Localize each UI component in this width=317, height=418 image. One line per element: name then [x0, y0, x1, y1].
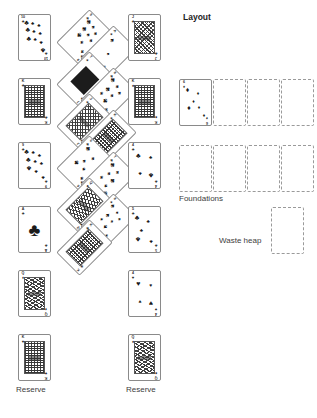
card-pip: ♣ — [103, 183, 109, 189]
card-pip: ♣ — [117, 90, 123, 96]
playing-card-9-club[interactable]: 9♣9♣♣♣♣♣♣♣♣♣♣ — [18, 142, 51, 189]
card-pip: ♥ — [149, 300, 153, 307]
card-pip: ♣ — [88, 37, 94, 43]
card-pip: ♦ — [198, 105, 201, 110]
card-pip: ♣ — [24, 148, 29, 155]
card-pip: ♠ — [115, 210, 120, 215]
card-pip: ♣ — [33, 159, 36, 164]
card-pip: ♣ — [29, 221, 41, 239]
playing-card-k-club[interactable]: K♣K♣ — [18, 78, 51, 125]
court-card-art — [24, 277, 45, 310]
foundation-slot-empty[interactable] — [179, 145, 212, 192]
card-pip: ♣ — [104, 85, 112, 93]
card-pip: ♦ — [186, 86, 190, 93]
court-card-band — [78, 242, 90, 254]
page-title: Layout — [183, 12, 211, 22]
court-card-band — [102, 132, 114, 144]
reserve-middle-label: Reserve — [126, 385, 156, 395]
card-pip: ♣ — [140, 227, 143, 232]
foundation-slot-empty[interactable] — [247, 145, 280, 192]
card-pip: ♣ — [99, 175, 105, 181]
card-pip-field: ♣ — [19, 207, 50, 252]
card-pip: ♠ — [106, 51, 111, 56]
card-pip: ♣ — [81, 166, 87, 172]
card-pip: ♣ — [41, 175, 44, 180]
card-pip: ♣ — [90, 155, 96, 161]
court-card-band — [138, 36, 151, 40]
card-pip: ♣ — [85, 32, 91, 38]
card-pip-field: ♣♣♣♣♣♣♣♣♣♣ — [19, 15, 50, 60]
card-pip: ♣ — [82, 158, 88, 164]
foundation-slot-empty[interactable] — [281, 79, 314, 126]
card-pip: ♣ — [109, 161, 117, 169]
card-pip: ♣ — [25, 26, 30, 33]
waste-heap-label: Waste heap — [219, 236, 261, 246]
playing-card-k-spade[interactable]: K♠K♠ — [128, 78, 161, 125]
card-pip: ♣ — [114, 84, 120, 90]
card-pip-field: ♣♣♣♣ — [129, 143, 160, 188]
card-pip: ♣ — [147, 218, 150, 223]
playing-card-10-club[interactable]: 10♣10♣♣♣♣♣♣♣♣♣♣♣ — [18, 14, 51, 61]
court-card-band — [28, 100, 41, 104]
card-pip: ♣ — [79, 40, 85, 46]
card-pip: ♥ — [136, 279, 140, 286]
court-card-art — [134, 85, 155, 118]
card-pip: ♠ — [109, 202, 117, 210]
card-pip: ♣ — [26, 156, 31, 163]
card-pip: ♣ — [38, 31, 41, 36]
card-index: 7♠ — [84, 54, 94, 64]
foundation-slot-empty[interactable] — [247, 79, 280, 126]
court-card-art — [24, 341, 45, 374]
card-pip: ♣ — [136, 235, 141, 242]
playing-card-q-spade[interactable]: Q♠Q♠ — [128, 334, 161, 381]
card-pip: ♣ — [72, 159, 80, 167]
card-pip: ♣ — [24, 19, 29, 26]
foundation-slot-empty[interactable] — [281, 145, 314, 192]
card-pip: ♣ — [31, 21, 34, 26]
card-pip: ♣ — [38, 152, 41, 157]
card-pip: ♣ — [33, 37, 36, 42]
playing-card-4-club[interactable]: 4♣4♣♣♣♣♣ — [128, 142, 161, 189]
card-pip: ♣ — [149, 239, 152, 244]
card-pip: ♣ — [99, 91, 105, 97]
card-pip: ♣ — [101, 97, 109, 105]
card-pip: ♣ — [35, 168, 38, 173]
card-pip-field: ♥♥♥♥ — [129, 271, 160, 316]
playing-card-5-club[interactable]: 5♣5♣♣♣♣♣♣ — [128, 206, 161, 253]
playing-card-6-diamond[interactable]: 6♦6♦♦♦♦♦♦♦ — [179, 79, 212, 126]
card-pip: ♥ — [149, 283, 152, 288]
playing-card-q-diamond[interactable]: Q♦Q♦ — [18, 270, 51, 317]
court-card-art — [134, 341, 155, 374]
card-pip-field: ♦♦♦♦♦♦ — [180, 80, 211, 125]
card-pip: ♠ — [109, 219, 114, 224]
card-pip: ♣ — [93, 30, 99, 36]
playing-card-j-club[interactable]: J♣J♣ — [128, 14, 161, 61]
playing-card-a-club[interactable]: A♣A♣♣ — [18, 206, 51, 253]
card-pip: ♣ — [135, 213, 140, 220]
card-pip: ♣ — [138, 170, 141, 175]
card-pip: ♣ — [27, 34, 32, 41]
card-pip: ♠ — [102, 223, 110, 231]
court-card-band — [138, 356, 151, 360]
card-pip: ♥ — [138, 298, 141, 303]
court-card-band — [28, 356, 41, 360]
card-pip: ♣ — [32, 150, 35, 155]
foundation-slot-empty[interactable] — [213, 145, 246, 192]
foundation-slot-empty[interactable] — [213, 79, 246, 126]
reserve-left-label: Reserve — [16, 385, 46, 395]
playing-card-4-heart[interactable]: 4♥4♥♥♥♥♥ — [128, 270, 161, 317]
court-card-band — [138, 100, 151, 104]
playing-card-k-heart[interactable]: K♥K♥ — [18, 334, 51, 381]
waste-heap-slot[interactable] — [271, 207, 304, 254]
card-pip: ♣ — [90, 24, 96, 30]
card-pip: ♠ — [109, 36, 117, 44]
card-pip-field: ♣♣♣♣♣ — [129, 207, 160, 252]
card-pip: ♣ — [40, 160, 43, 165]
card-pip: ♦ — [202, 113, 205, 118]
court-card-art — [134, 21, 155, 54]
card-pip: ♣ — [32, 29, 35, 34]
court-card-art — [65, 228, 103, 266]
card-pip: ♣ — [106, 171, 112, 177]
court-card-band — [28, 292, 41, 296]
card-pip: ♣ — [27, 165, 32, 172]
